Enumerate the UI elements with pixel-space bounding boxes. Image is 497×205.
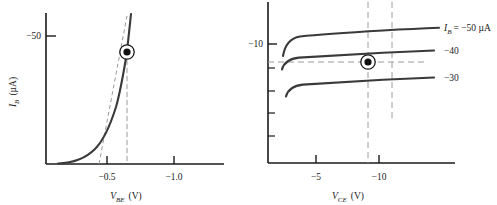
curve-label-subscript: B xyxy=(447,28,452,36)
y-axis-label-subscript: B xyxy=(13,99,21,104)
chart-output-characteristic: −10 −5 −10 IB= −50 µA xyxy=(248,0,497,205)
y-axis-label: IB(µA) xyxy=(8,77,21,108)
output-characteristic-svg: −10 −5 −10 IB= −50 µA xyxy=(248,0,497,205)
curve-label-value: = −50 µA xyxy=(453,23,490,33)
transistor-characteristic-figure: −50 −0.5 −1.0 IB(µA) xyxy=(0,0,497,205)
operating-point-dot xyxy=(123,48,130,55)
tangent-construction-line xyxy=(99,16,127,164)
base-current-curve xyxy=(58,14,131,164)
x-axis-label-subscript: BE xyxy=(116,196,125,204)
y-tick-label-50: −50 xyxy=(26,31,41,41)
curve-label-ib-50: IB= −50 µA xyxy=(443,23,491,36)
svg-text:IB(µA): IB(µA) xyxy=(8,77,21,108)
x-axis-label: VCE(V) xyxy=(332,191,364,204)
curve-ib-40 xyxy=(282,51,434,70)
y-tick-label-10: −10 xyxy=(248,39,263,49)
chart-input-characteristic: −50 −0.5 −1.0 IB(µA) xyxy=(0,0,248,205)
y-axis-label-unit: (µA) xyxy=(8,77,19,96)
operating-point-dot xyxy=(364,58,371,65)
curve-label-ib-40: −40 xyxy=(444,46,459,56)
x-tick-label-10: −10 xyxy=(372,172,387,182)
curve-label-ib-30: −30 xyxy=(444,73,459,83)
operating-point-marker xyxy=(120,45,134,59)
x-axis-label: VBE(V) xyxy=(110,191,142,204)
x-tick-label-1p0: −1.0 xyxy=(165,172,182,182)
operating-point-marker xyxy=(361,55,375,69)
x-axis-label-unit: (V) xyxy=(351,191,364,202)
curve-ib-30 xyxy=(286,78,434,97)
input-characteristic-svg: −50 −0.5 −1.0 IB(µA) xyxy=(0,0,248,205)
x-tick-label-5: −5 xyxy=(311,172,321,182)
x-axis-label-unit: (V) xyxy=(129,191,142,202)
x-tick-label-0p5: −0.5 xyxy=(98,172,115,182)
x-axis-label-subscript: CE xyxy=(338,196,348,204)
